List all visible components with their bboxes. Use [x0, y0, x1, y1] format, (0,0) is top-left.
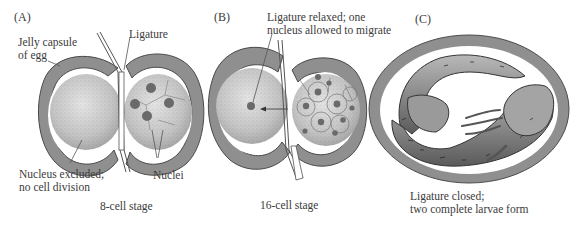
panel-a-label: (A): [14, 10, 31, 25]
panel-b-embryo: [208, 34, 366, 180]
stage-a-label: 8-cell stage: [100, 200, 153, 213]
nucleus-excluded-line2: no cell division: [19, 181, 104, 194]
ligature-relaxed-line1: Ligature relaxed; one: [267, 11, 391, 24]
panel-c-embryo: [369, 35, 569, 183]
jelly-capsule-line2: of egg: [18, 49, 77, 62]
nucleus: [315, 74, 321, 80]
nucleus: [349, 105, 354, 110]
nucleus: [326, 80, 331, 85]
result-c-label: Ligature closed; two complete larvae for…: [410, 190, 528, 216]
migrated-nucleus: [247, 102, 255, 110]
nucleus: [302, 128, 307, 133]
nucleus: [130, 99, 140, 109]
nucleus-excluded-line1: Nucleus excluded;: [19, 168, 104, 181]
nucleus: [146, 83, 156, 93]
nucleus: [315, 89, 322, 96]
nucleus: [340, 117, 346, 123]
jelly-capsule-label: Jelly capsule of egg: [18, 36, 77, 62]
ligature-relaxed-line2: nucleus allowed to migrate: [267, 24, 391, 37]
nucleus: [332, 130, 338, 136]
result-line2: two complete larvae form: [410, 203, 528, 216]
ligature-relaxed-label: Ligature relaxed; one nucleus allowed to…: [267, 11, 391, 37]
nucleus: [334, 101, 341, 108]
nucleus: [164, 98, 174, 108]
nucleus: [318, 119, 324, 125]
panel-b-label: (B): [214, 10, 230, 25]
stage-b-label: 16-cell stage: [260, 199, 318, 212]
ligature-label: Ligature: [129, 28, 168, 41]
nuclei-label: Nuclei: [153, 169, 184, 182]
result-line1: Ligature closed;: [410, 190, 528, 203]
nucleus: [303, 103, 309, 109]
nucleus: [142, 111, 152, 121]
jelly-capsule-line1: Jelly capsule: [18, 36, 77, 49]
nucleus-excluded-label: Nucleus excluded; no cell division: [19, 168, 104, 194]
panel-c-label: (C): [415, 12, 431, 27]
